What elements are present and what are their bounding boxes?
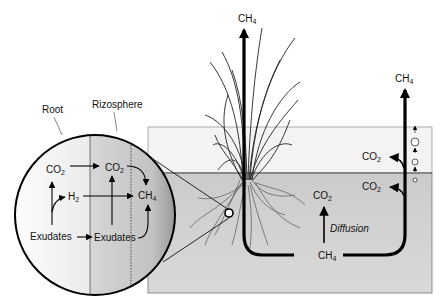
diffusion-label: Diffusion (330, 223, 369, 234)
methane-cycle-diagram: CH4 CH4 CO2 CO2 CO2 Diffusion CH4 (0, 0, 442, 308)
svg-text:CH4: CH4 (238, 13, 256, 25)
inset-exudates-root: Exudates (30, 231, 72, 242)
rhizosphere-label: Rizosphere (92, 99, 143, 110)
rhizosphere-spot-icon (225, 209, 233, 217)
root-label: Root (42, 104, 63, 115)
ebullition-ch4-label: CH4 (395, 73, 413, 85)
water-layer (148, 127, 432, 173)
root-label-pointer (54, 117, 62, 135)
plant-ch4-label: CH4 (238, 13, 256, 25)
rhizosphere-label-pointer (114, 112, 117, 131)
svg-text:CH4: CH4 (395, 73, 413, 85)
inset-exudates-rhizo: Exudates (94, 232, 136, 243)
soil-layer (148, 173, 432, 293)
